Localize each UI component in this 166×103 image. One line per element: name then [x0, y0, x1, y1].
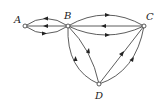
graph-diagram: A B C D	[0, 0, 166, 103]
label-b: B	[63, 10, 71, 21]
arrow-d-b-outer	[74, 56, 78, 61]
label-d: D	[94, 90, 103, 101]
arrow-b-c-upper	[105, 13, 110, 17]
edge-d-b-inner	[68, 26, 99, 84]
arrow-b-a-straight	[43, 24, 48, 28]
node-a	[23, 24, 27, 28]
label-a: A	[13, 14, 21, 25]
node-b	[66, 24, 70, 28]
node-d	[97, 82, 101, 86]
arrow-c-b-straight	[101, 24, 106, 28]
node-c	[142, 24, 146, 28]
arrow-a-b-lower	[42, 32, 47, 36]
arrow-b-a-upper	[43, 17, 48, 21]
label-c: C	[146, 11, 154, 22]
edge-d-b-outer	[68, 26, 99, 84]
arrow-d-c-straight	[119, 51, 124, 57]
arrow-b-c-lower	[105, 33, 110, 37]
